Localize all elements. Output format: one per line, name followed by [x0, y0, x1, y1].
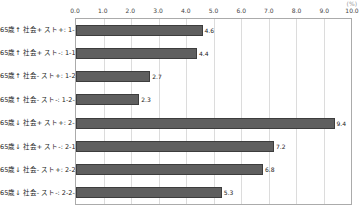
bar-row: 6.8	[76, 164, 351, 175]
category-label: 65歳↓ 社会- スト+: 2-2-1	[0, 166, 71, 174]
bar-value-label: 4.4	[199, 50, 209, 57]
bar-row: 4.6	[76, 25, 351, 36]
bar	[76, 71, 150, 82]
bar-value-label: 9.4	[337, 120, 347, 127]
bar	[76, 187, 222, 198]
category-label: 65歳↓ 社会+ スト-: 2-1-2	[0, 143, 71, 151]
x-axis-tick-label: 2.0	[126, 7, 136, 14]
bar-row: 7.2	[76, 141, 351, 152]
x-axis-tick-label: 9.0	[320, 7, 330, 14]
category-label: 65歳↑ 社会+ スト-: 1-1-2	[0, 49, 71, 57]
bar-value-label: 5.3	[224, 189, 234, 196]
bar-rows: 4.64.42.72.39.47.26.85.3	[76, 19, 351, 204]
category-labels: 65歳↑ 社会+ スト+: 1-1-165歳↑ 社会+ スト-: 1-1-265…	[0, 18, 71, 205]
bar-row: 5.3	[76, 187, 351, 198]
x-axis-tick-label: 0.0	[70, 7, 80, 14]
bar	[76, 94, 139, 105]
bar	[76, 48, 197, 59]
bar-value-label: 2.3	[141, 96, 151, 103]
x-axis-tick-label: 3.0	[153, 7, 163, 14]
x-axis-tick-label: 4.0	[181, 7, 191, 14]
plot-area: 4.64.42.72.39.47.26.85.3	[75, 18, 352, 205]
bar-value-label: 6.8	[265, 166, 275, 173]
x-axis-tick-label: 6.0	[236, 7, 246, 14]
bar	[76, 25, 203, 36]
x-axis-tick-label: 1.0	[98, 7, 108, 14]
bar-value-label: 4.6	[205, 27, 215, 34]
category-label: 65歳↑ 社会- スト-: 1-2-2	[0, 96, 71, 104]
bar-row: 2.3	[76, 94, 351, 105]
bar	[76, 164, 263, 175]
category-label: 65歳↓ 社会+ スト+: 2-1-1	[0, 119, 71, 127]
x-axis-tick-label: 10.0	[345, 7, 358, 14]
bar-row: 4.4	[76, 48, 351, 59]
bar-value-label: 2.7	[152, 73, 162, 80]
x-axis-tick-label: 8.0	[292, 7, 302, 14]
bar	[76, 141, 274, 152]
bar-row: 2.7	[76, 71, 351, 82]
bar	[76, 118, 335, 129]
x-axis-tick-label: 7.0	[264, 7, 274, 14]
bar-chart: (%) 0.01.02.03.04.05.06.07.08.09.010.0 6…	[0, 0, 363, 214]
category-label: 65歳↑ 社会- スト+: 1-2-1	[0, 72, 71, 80]
bar-row: 9.4	[76, 118, 351, 129]
x-axis-tick-labels: 0.01.02.03.04.05.06.07.08.09.010.0	[75, 7, 352, 15]
category-label: 65歳↑ 社会+ スト+: 1-1-1	[0, 26, 71, 34]
category-label: 65歳↓ 社会- スト-: 2-2-2	[0, 189, 71, 197]
x-axis-tick-label: 5.0	[209, 7, 219, 14]
bar-value-label: 7.2	[276, 143, 286, 150]
